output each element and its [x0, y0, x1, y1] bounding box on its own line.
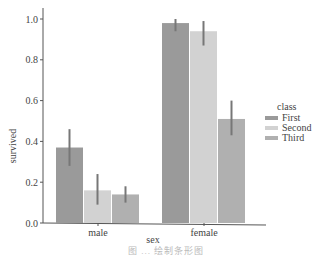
y-tick-label: 0.8	[26, 54, 39, 65]
y-tick-label: 0.0	[26, 218, 39, 229]
x-axis-line	[43, 223, 266, 225]
legend: classFirstSecondThird	[265, 101, 311, 143]
bar-female-second	[190, 31, 217, 223]
legend-swatch-first	[265, 116, 278, 120]
y-tick-label: 1.0	[26, 14, 39, 25]
x-tick-label-male: male	[88, 227, 108, 238]
y-tick-label: 0.6	[26, 95, 39, 106]
bar-chart: 0.00.20.40.60.81.0survivedsexmalefemale …	[0, 0, 323, 258]
figure-caption: 图 ... 绘制条形图	[128, 244, 204, 257]
legend-title: class	[277, 101, 297, 112]
bars	[56, 19, 245, 223]
bar-female-first	[162, 23, 189, 223]
y-tick-label: 0.4	[26, 136, 39, 147]
legend-swatch-third	[265, 136, 278, 140]
y-tick-label: 0.2	[26, 177, 39, 188]
y-axis-title: survived	[7, 129, 18, 163]
legend-label-third: Third	[282, 132, 304, 143]
legend-swatch-second	[265, 126, 278, 130]
x-tick-label-female: female	[190, 227, 218, 238]
